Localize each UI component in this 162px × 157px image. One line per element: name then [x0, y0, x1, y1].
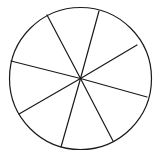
circle-sectors-figure	[0, 0, 162, 157]
figure-canvas	[0, 0, 162, 157]
